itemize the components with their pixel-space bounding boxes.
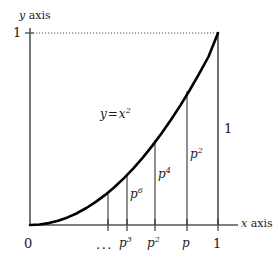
segment-label-p4-exponent: 4 xyxy=(166,166,171,175)
x-tick-label-1: 1 xyxy=(213,237,221,250)
x-tick-label-p: p xyxy=(182,237,190,249)
x-tick-label-p2-exponent: 2 xyxy=(155,235,160,244)
y-tick-label-1: 1 xyxy=(13,26,21,39)
curve-y-equals-x-squared xyxy=(30,33,218,225)
segment-label-p6-base: p xyxy=(130,187,138,201)
segment-label-p6: p6 xyxy=(130,188,143,200)
segment-label-p6-exponent: 6 xyxy=(138,186,143,195)
x-axis-title: x axis xyxy=(241,218,273,229)
origin-tick-label-0: 0 xyxy=(24,237,32,250)
equation-operator: = xyxy=(107,107,119,121)
x-tick-label-p2-base: p xyxy=(147,236,155,250)
segment-label-p2-base: p xyxy=(190,147,198,161)
x-tick-label-p3: p3 xyxy=(119,237,132,249)
x-tick-label-p2: p2 xyxy=(147,237,160,249)
equation-lhs: y xyxy=(100,107,107,121)
segment-label-p2-exponent: 2 xyxy=(198,146,203,155)
y-axis-title-text: axis xyxy=(25,9,50,22)
curve-equation-label: y=x2 xyxy=(100,108,131,120)
segment-label-p4: p4 xyxy=(158,168,171,180)
x-tick-label-ellipsis: ... xyxy=(96,238,113,251)
segment-label-p2: p2 xyxy=(190,148,203,160)
equation-rhs-exponent: 2 xyxy=(126,106,131,115)
segment-label-p4-base: p xyxy=(158,167,166,181)
equation-rhs-base: x xyxy=(119,107,126,121)
x-axis-title-text: axis xyxy=(247,217,272,230)
x-tick-label-p3-base: p xyxy=(119,236,127,250)
y-axis-title: y axis xyxy=(19,10,51,21)
x-tick-label-p3-exponent: 3 xyxy=(127,235,132,244)
figure-plot-y-equals-x-squared: y axis 1 x axis 0 ... p3 p2 p 1 y=x2 p6 … xyxy=(0,0,278,260)
plot-canvas xyxy=(0,0,278,260)
segment-label-1: 1 xyxy=(224,122,232,135)
